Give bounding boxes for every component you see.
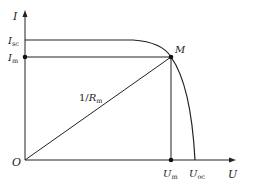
point-m-label: M: [174, 44, 186, 55]
uoc-label: Uoc: [189, 168, 205, 181]
load-line: [25, 57, 171, 160]
isc-label: Isc: [7, 35, 19, 48]
um-marker: [169, 158, 174, 163]
y-axis-arrow-icon: [23, 10, 28, 17]
x-axis-label: U: [228, 168, 238, 181]
origin-label: O: [12, 156, 21, 169]
slope-label: 1/Rm: [79, 92, 102, 105]
im-marker: [23, 55, 28, 60]
y-axis-label: I: [12, 10, 18, 23]
x-axis-arrow-icon: [229, 158, 236, 163]
im-label: Im: [7, 52, 18, 65]
point-m-marker: [169, 55, 174, 60]
iv-curve-diagram: I U O Isc Im M 1/Rm Um Uoc: [0, 0, 258, 185]
um-label: Um: [163, 168, 178, 181]
